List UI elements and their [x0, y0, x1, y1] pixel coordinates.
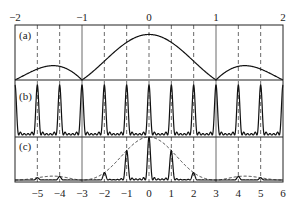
bottom-tick-label: −2 — [98, 187, 110, 199]
bottom-tick-label: 0 — [146, 187, 152, 199]
bottom-tick-label: −1 — [121, 187, 133, 199]
panel-label-c: (c) — [19, 140, 32, 153]
top-tick-label: 2 — [280, 11, 286, 23]
panel-label-b: (b) — [19, 90, 32, 103]
bottom-tick-label: −5 — [31, 187, 43, 199]
top-tick-label: −1 — [76, 11, 88, 23]
bottom-tick-label: 2 — [191, 187, 197, 199]
top-tick-label: 1 — [213, 11, 219, 23]
bottom-axis-ticks: −5−4−3−2−10123456 — [31, 187, 286, 199]
bottom-tick-label: 6 — [280, 187, 286, 199]
top-axis-ticks: −2−1012 — [9, 11, 286, 23]
bottom-tick-label: 3 — [213, 187, 219, 199]
top-tick-label: 0 — [146, 11, 152, 23]
bottom-tick-label: 4 — [236, 187, 242, 199]
top-tick-label: −2 — [9, 11, 21, 23]
diffraction-figure: −2−1012 −5−4−3−2−10123456 (a)(b)(c) — [0, 0, 296, 212]
bottom-tick-label: 1 — [169, 187, 175, 199]
vertical-grid-lines — [37, 25, 260, 182]
bottom-tick-label: 5 — [258, 187, 264, 199]
panel-label-a: (a) — [19, 29, 32, 42]
bottom-tick-label: −3 — [76, 187, 88, 199]
bottom-tick-label: −4 — [54, 187, 66, 199]
